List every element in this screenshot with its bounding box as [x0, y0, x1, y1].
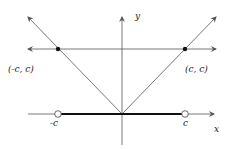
diagram: y x (-c, c) (c, c) -c c	[0, 0, 229, 149]
tick-c-label: c	[183, 118, 188, 128]
abs-left-branch	[28, 17, 122, 114]
point-neg-c-c	[56, 47, 60, 51]
x-axis-label: x	[214, 124, 219, 134]
point-neg-c-c-label: (-c, c)	[8, 64, 34, 74]
open-circle-neg-c	[55, 111, 62, 118]
point-c-c	[183, 47, 187, 51]
open-circle-c	[182, 111, 189, 118]
y-axis-label: y	[134, 11, 141, 21]
tick-neg-c-label: -c	[50, 118, 58, 128]
point-c-c-label: (c, c)	[185, 64, 208, 74]
